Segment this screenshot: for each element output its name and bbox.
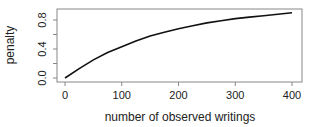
penalty-chart: 0.00.40.8 0100200300400 number of observ… [0,0,318,127]
x-tick-label: 200 [169,89,187,101]
y-tick-label: 0.0 [36,70,48,85]
x-axis: 0100200300400 [62,82,301,101]
penalty-line [65,13,292,78]
x-tick-label: 0 [62,89,68,101]
x-tick-label: 100 [113,89,131,101]
y-axis: 0.00.40.8 [36,12,57,85]
y-axis-label: penalty [3,26,17,65]
x-tick-label: 400 [283,89,301,101]
plot-box [57,9,302,82]
x-tick-label: 300 [226,89,244,101]
x-axis-label: number of observed writings [105,110,256,124]
y-tick-label: 0.8 [36,12,48,27]
y-tick-label: 0.4 [36,41,48,56]
